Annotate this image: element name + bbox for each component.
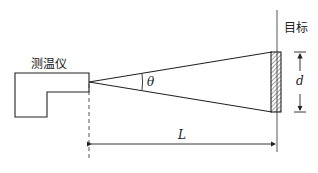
instrument-body [15, 73, 89, 117]
target-label: 目标 [284, 18, 308, 35]
angle-arc [142, 74, 143, 90]
instrument-label: 测温仪 [31, 54, 67, 71]
diagram-canvas [0, 0, 318, 173]
target-block [271, 52, 281, 112]
cone-upper-edge [89, 52, 272, 82]
angle-label: θ [147, 75, 154, 89]
target-size-label: d [296, 74, 304, 88]
distance-label: L [178, 128, 186, 142]
cone-lower-edge [89, 82, 272, 112]
